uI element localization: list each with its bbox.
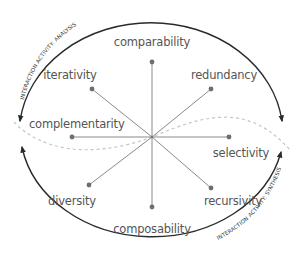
spoke-diversity bbox=[89, 137, 152, 185]
dot-diversity bbox=[87, 183, 92, 188]
label-complementarity: complementarity bbox=[29, 117, 125, 131]
label-composability: composability bbox=[113, 222, 191, 236]
dot-recursivity bbox=[209, 186, 214, 191]
dot-complementarity bbox=[70, 135, 75, 140]
label-selectivity: selectivity bbox=[213, 146, 270, 160]
dot-redundancy bbox=[209, 87, 214, 92]
label-diversity: diversity bbox=[48, 194, 96, 208]
spokes bbox=[72, 62, 229, 207]
spoke-redundancy bbox=[152, 89, 211, 137]
label-recursivity: recursivity bbox=[204, 194, 263, 208]
center-point bbox=[151, 136, 153, 138]
analysis-arc-label: INTERACTION ACTIVITY: ANALYSIS bbox=[19, 21, 77, 100]
label-iterativity: iterativity bbox=[43, 68, 97, 82]
label-comparability: comparability bbox=[114, 35, 191, 49]
label-redundancy: redundancy bbox=[191, 68, 258, 82]
dot-comparability bbox=[150, 60, 155, 65]
spoke-recursivity bbox=[152, 137, 211, 188]
dot-iterativity bbox=[90, 87, 95, 92]
spoke-dots bbox=[70, 60, 232, 210]
dot-composability bbox=[150, 205, 155, 210]
interaction-activity-diagram: INTERACTION ACTIVITY: ANALYSIS INTERACTI… bbox=[0, 0, 304, 269]
dot-selectivity bbox=[227, 135, 232, 140]
diagram-canvas: INTERACTION ACTIVITY: ANALYSIS INTERACTI… bbox=[0, 0, 304, 269]
